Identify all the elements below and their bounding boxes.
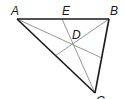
triangle-diagram: A E B D C xyxy=(0,0,124,99)
label-a: A xyxy=(10,4,19,18)
side-ca xyxy=(17,19,95,93)
label-d: D xyxy=(72,28,81,42)
cevian-b-to-ac xyxy=(55,19,109,56)
cevian-a-to-bc xyxy=(17,19,102,58)
label-b: B xyxy=(110,4,118,18)
label-e: E xyxy=(62,4,71,18)
label-c: C xyxy=(96,94,105,99)
